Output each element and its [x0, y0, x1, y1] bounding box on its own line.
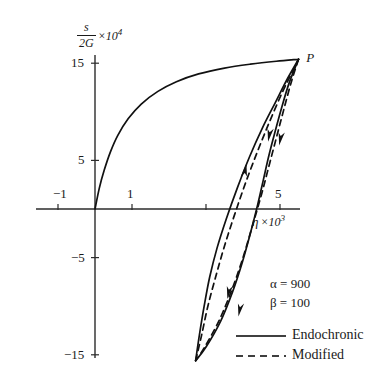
hysteresis-chart-figure: s 2G ×104 η×103 −115155−5−15 P α = 900 β… — [0, 0, 381, 381]
y-tick-label: 15 — [71, 56, 84, 69]
x-tick-label: 5 — [275, 187, 282, 200]
series-unload-branch-endochronic — [196, 59, 299, 360]
parameter-alpha: α = 900 — [270, 277, 310, 290]
y-axis-numerator: s — [77, 20, 96, 36]
x-axis-title: η×103 — [252, 214, 285, 228]
y-axis-title: s 2G ×104 — [77, 20, 122, 51]
y-axis-multiplier-base: 10 — [106, 29, 118, 43]
x-axis-multiplier: ×103 — [260, 215, 285, 229]
x-tick-label: 1 — [127, 187, 134, 200]
y-axis-fraction: s 2G — [77, 20, 96, 51]
x-axis-multiplier-exponent: 3 — [281, 213, 286, 223]
arrow-unload-solid-down — [279, 133, 285, 146]
y-axis-denominator: 2G — [77, 36, 96, 51]
y-tick-label: 5 — [78, 153, 85, 166]
y-axis-multiplier-exponent: 4 — [118, 27, 123, 37]
x-axis-symbol: η — [252, 214, 258, 229]
data-series-group — [95, 59, 299, 360]
parameter-beta: β = 100 — [270, 296, 310, 309]
x-axis-multiplier-base: 10 — [269, 215, 281, 229]
arrow-reload-up — [241, 164, 247, 177]
legend-sample-lines — [236, 336, 286, 356]
axes-group — [36, 55, 300, 358]
y-tick-label: −15 — [64, 348, 84, 361]
legend-label-endochronic: Endochronic — [292, 328, 364, 342]
y-tick-label: −5 — [71, 251, 85, 264]
x-tick-label: −1 — [53, 187, 67, 200]
point-p-label: P — [306, 51, 314, 64]
arrow-unload-solid-lower-down — [238, 304, 244, 317]
legend-label-modified: Modified — [292, 348, 344, 362]
y-axis-multiplier: ×104 — [98, 27, 123, 44]
